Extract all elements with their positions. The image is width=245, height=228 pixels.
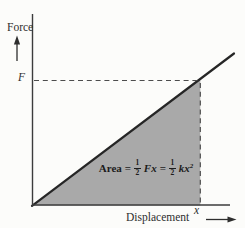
- area-formula-equals-2: =: [160, 162, 166, 174]
- area-formula-term-kx2: kx2: [179, 162, 194, 174]
- fraction-denominator: 2: [169, 168, 176, 178]
- fraction-denominator: 2: [134, 168, 141, 178]
- graph-canvas: [0, 0, 245, 228]
- force-axis-label: Force: [7, 21, 33, 34]
- force-displacement-figure: Force F x Displacement Area = 1 2 Fx = 1…: [0, 0, 245, 228]
- area-formula-term-kx-base: kx: [179, 162, 190, 174]
- force-value-label: F: [18, 71, 25, 84]
- displacement-value-label: x: [194, 204, 199, 217]
- area-formula-fraction-1: 1 2: [134, 159, 141, 177]
- fraction-numerator: 1: [170, 159, 174, 168]
- area-formula: Area = 1 2 Fx = 1 2 kx2: [88, 155, 204, 181]
- area-formula-term-fx: Fx: [144, 162, 157, 174]
- area-formula-fraction-2: 1 2: [169, 159, 176, 177]
- fraction-numerator: 1: [136, 159, 140, 168]
- area-formula-word: Area: [99, 162, 122, 174]
- area-formula-term-kx-exponent: 2: [190, 162, 194, 170]
- area-formula-equals-1: =: [125, 162, 131, 174]
- displacement-axis-label: Displacement: [126, 211, 189, 224]
